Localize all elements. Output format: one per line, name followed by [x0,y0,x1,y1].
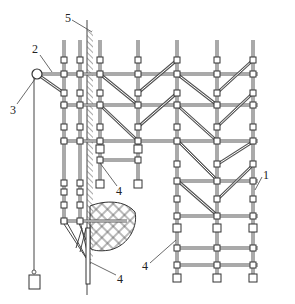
diagram-canvas: 5 2 3 1 4 4 4 [0,0,295,304]
label-4-column: 4 [142,259,148,273]
scaffold-diagram: 5 2 3 1 4 4 4 [0,0,295,304]
label-4-bracket: 4 [117,272,123,286]
diagonal-braces [37,60,254,216]
label-2: 2 [32,42,38,56]
pulley-assembly [29,69,42,289]
label-3: 3 [10,103,16,117]
label-1: 1 [263,168,269,182]
counterweight [29,275,40,289]
safety-net [90,202,136,251]
pulley-icon [32,69,42,79]
label-4-hanging: 4 [116,184,122,198]
cantilever-bracket [62,221,90,284]
label-5: 5 [65,11,71,25]
